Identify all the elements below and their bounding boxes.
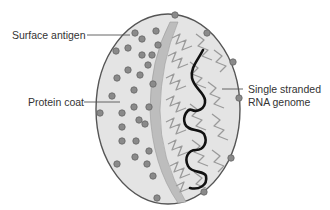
label-rna-genome-line1: Single stranded [248, 83, 321, 95]
label-rna-genome-line2: RNA genome [248, 96, 310, 108]
virus-diagram: Surface antigen Protein coat Single stra… [0, 0, 330, 210]
label-surface-antigen: Surface antigen [12, 29, 86, 41]
label-protein-coat: Protein coat [28, 96, 84, 108]
